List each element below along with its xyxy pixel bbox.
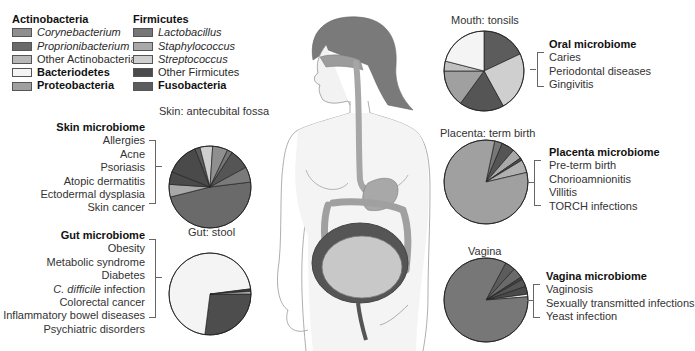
vagina-microbiome-title: Vagina microbiome: [546, 270, 695, 283]
vagina-bracket: [533, 284, 540, 318]
pie-chart-skin: [167, 144, 253, 230]
skin-microbiome-title: Skin microbiome: [40, 121, 145, 134]
placenta-bracket: [534, 160, 541, 206]
condition-item: Acne: [40, 148, 145, 161]
legend-label: Other Firmicutes: [158, 66, 239, 79]
legend-label: Staphylococcus: [158, 40, 235, 53]
legend-label: Bacteriodetes: [37, 66, 110, 79]
pie-title-skin: Skin: antecubital fossa: [159, 105, 269, 117]
legend-item: Other Actinobacteria: [12, 53, 137, 66]
legend-swatch: [133, 42, 153, 51]
legend-item: Streptococcus: [133, 53, 239, 66]
pie-chart-vagina: [442, 256, 530, 344]
legend-item: Proteobacteria: [12, 79, 137, 92]
condition-item: Periodontal diseases: [549, 65, 651, 78]
condition-item: Diabetes: [3, 269, 145, 282]
legend-swatch: [12, 68, 32, 77]
legend-item: Staphylococcus: [133, 40, 239, 53]
condition-item: Sexually transmitted infections: [546, 297, 695, 310]
pie-title-gut: Gut: stool: [188, 226, 235, 238]
condition-item: Villitis: [549, 186, 660, 199]
legend-swatch: [133, 28, 153, 37]
legend-item: Fusobacteria: [133, 79, 239, 92]
skin-microbiome-box: Skin microbiome Allergies Acne Psoriasis…: [40, 121, 145, 215]
legend-swatch: [12, 28, 32, 37]
condition-item: Metabolic syndrome: [3, 256, 145, 269]
condition-item: Pre-term birth: [549, 159, 660, 172]
condition-item: Ectodermal dysplasia: [40, 188, 145, 201]
oral-microbiome-box: Oral microbiome Caries Periodontal disea…: [549, 38, 651, 92]
condition-item: Caries: [549, 51, 651, 64]
legend-swatch: [133, 82, 153, 91]
oral-bracket-tick: [530, 69, 536, 70]
legend-item: Corynebacterium: [12, 26, 137, 39]
pie-title-placenta: Placenta: term birth: [440, 127, 535, 139]
vagina-bracket-tick: [527, 300, 533, 301]
legend-item: Lactobacillus: [133, 26, 239, 39]
fetus: [322, 236, 402, 298]
pie-chart-placenta: [442, 138, 530, 226]
legend-swatch: [12, 55, 32, 64]
legend-label: Fusobacteria: [158, 79, 226, 92]
legend-column-2: Firmicutes Lactobacillus Staphylococcus …: [133, 13, 239, 93]
gut-microbiome-box: Gut microbiome Obesity Metabolic syndrom…: [3, 229, 145, 336]
legend-item: Bacteriodetes: [12, 66, 137, 79]
condition-item: Psoriasis: [40, 161, 145, 174]
condition-item: Allergies: [40, 134, 145, 147]
legend-item: Proprionibacterium: [12, 40, 137, 53]
legend-heading-firmicutes: Firmicutes: [133, 13, 239, 26]
oral-bracket: [537, 52, 544, 87]
condition-item: Chorioamnionitis: [549, 173, 660, 186]
placenta-microbiome-title: Placenta microbiome: [549, 146, 660, 159]
condition-item: Yeast infection: [546, 310, 695, 323]
legend-label: Corynebacterium: [37, 26, 121, 39]
condition-item: Psychiatric disorders: [3, 323, 145, 336]
female-body-illustration: [268, 5, 438, 351]
oral-microbiome-title: Oral microbiome: [549, 38, 651, 51]
pie-chart-mouth: [442, 29, 526, 113]
legend-swatch: [12, 42, 32, 51]
legend-label: Proprionibacterium: [37, 40, 129, 53]
vagina-microbiome-box: Vagina microbiome Vaginosis Sexually tra…: [546, 270, 695, 324]
legend-label: Other Actinobacteria: [37, 53, 137, 66]
gut-bracket: [149, 239, 156, 318]
legend-item: Other Firmicutes: [133, 66, 239, 79]
skin-bracket-tick: [156, 166, 162, 167]
condition-item: C. difficile infection: [3, 283, 145, 296]
pie-slice: [205, 294, 251, 335]
legend-label: Lactobacillus: [158, 26, 222, 39]
legend-swatch: [133, 55, 153, 64]
condition-item: Inflammatory bowel diseases: [3, 309, 145, 322]
infection-text: infection: [101, 283, 145, 295]
gut-microbiome-title: Gut microbiome: [3, 229, 145, 242]
skin-bracket: [149, 140, 156, 204]
condition-item: Gingivitis: [549, 78, 651, 91]
pie-title-vagina: Vagina: [468, 245, 501, 257]
placenta-bracket-tick: [528, 182, 534, 183]
legend-swatch: [12, 82, 32, 91]
condition-item: Colorectal cancer: [3, 296, 145, 309]
gut-bracket-tick: [156, 277, 162, 278]
legend-heading-actinobacteria: Actinobacteria: [12, 13, 137, 26]
condition-item: Vaginosis: [546, 283, 695, 296]
condition-item: Atopic dermatitis: [40, 175, 145, 188]
legend-label: Streptococcus: [158, 53, 228, 66]
legend-label: Proteobacteria: [37, 79, 114, 92]
pie-title-mouth: Mouth: tonsils: [451, 14, 519, 26]
condition-item: TORCH infections: [549, 200, 660, 213]
pie-chart-gut: [167, 251, 253, 337]
condition-item: Obesity: [3, 242, 145, 255]
legend-swatch: [133, 68, 153, 77]
legend-column-1: Actinobacteria Corynebacterium Proprioni…: [12, 13, 137, 93]
placenta-microbiome-box: Placenta microbiome Pre-term birth Chori…: [549, 146, 660, 213]
condition-item: Skin cancer: [40, 201, 145, 214]
c-difficile-italic: C. difficile: [53, 283, 101, 295]
